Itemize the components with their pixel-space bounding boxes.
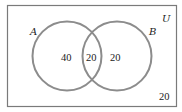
set-b-only-count: 20 (110, 52, 121, 63)
venn-diagram: U A B 40 20 20 20 (0, 0, 182, 112)
outside-count: 20 (159, 91, 170, 102)
set-b-label: B (148, 26, 156, 37)
universe-label: U (162, 13, 171, 24)
set-a-only-count: 40 (61, 52, 72, 63)
intersection-count: 20 (86, 52, 97, 63)
set-a-label: A (29, 26, 37, 37)
